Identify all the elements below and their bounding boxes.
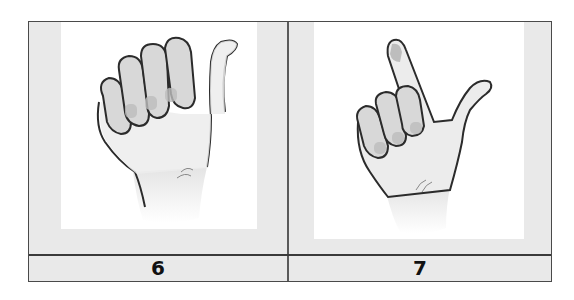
image-panel-7: [314, 22, 524, 239]
column-divider: [287, 22, 289, 281]
cell-label-6: 6: [29, 256, 287, 281]
hand-sign-thumb-out-fist-icon: [61, 22, 257, 229]
number-sign-table: 6 7: [28, 21, 552, 282]
image-panel-6: [61, 22, 257, 229]
cell-label-7: 7: [289, 256, 551, 281]
hand-sign-index-and-thumb-icon: [314, 22, 524, 239]
